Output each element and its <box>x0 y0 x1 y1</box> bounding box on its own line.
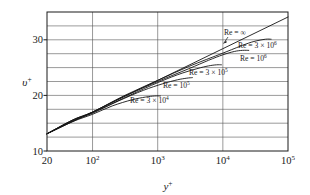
figure-container: 102030 20102103104105 υ+ y+ Re = ∞ Re = … <box>0 0 310 195</box>
y-tick-label-20: 20 <box>33 90 44 101</box>
curve-label-re-1e5: Re = 105 <box>163 80 190 90</box>
curve-label-re-3e6: Re = 3 × 106 <box>238 40 277 50</box>
curve-label-re-3e4: Re = 3 × 104 <box>130 95 169 105</box>
curve-label-re-3e5: Re = 3 × 105 <box>189 67 228 77</box>
x-tick-label-20: 20 <box>42 155 53 166</box>
curve-label-re-1e6: Re = 106 <box>240 53 267 63</box>
curve-label-re-infinity: Re = ∞ <box>224 28 246 37</box>
velocity-profile-chart: 102030 20102103104105 υ+ y+ Re = ∞ Re = … <box>0 0 310 195</box>
y-tick-label-30: 30 <box>33 34 44 45</box>
